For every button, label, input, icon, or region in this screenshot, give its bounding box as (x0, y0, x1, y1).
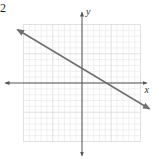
x-axis-label: x (144, 84, 150, 95)
line-series (18, 30, 150, 109)
coordinate-plane: x y (0, 0, 159, 159)
y-axis-label: y (85, 6, 91, 17)
plotted-line (18, 30, 150, 109)
